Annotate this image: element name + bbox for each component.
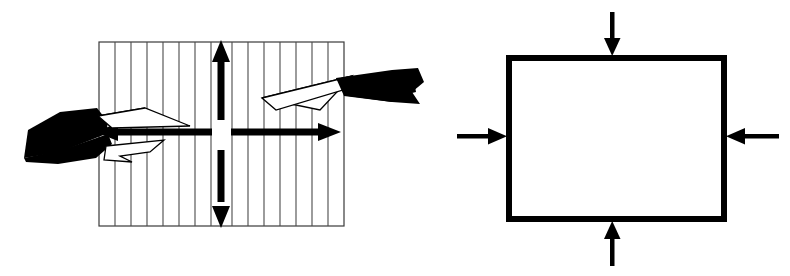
- vertical-arrow-shaft-lower: [218, 150, 225, 202]
- figure-root: [0, 0, 790, 276]
- bottom-arrow-head: [604, 221, 621, 239]
- right-compression-arrow: [726, 128, 779, 145]
- horizontal-arrow-shaft-right: [231, 129, 330, 136]
- right-arrow-shaft: [745, 134, 779, 139]
- square-outline: [509, 58, 724, 219]
- left-arrow-head: [488, 128, 507, 145]
- top-arrow-head: [604, 38, 621, 56]
- top-compression-arrow: [604, 12, 621, 56]
- left-compression-arrow: [457, 128, 507, 145]
- bottom-arrow-shaft: [610, 235, 615, 266]
- tension-specimen-panel: [24, 40, 424, 228]
- left-arrow-shaft: [457, 134, 490, 139]
- bottom-compression-arrow: [604, 221, 621, 266]
- horizontal-arrow-shaft-left: [114, 129, 212, 136]
- stress-diagram-svg: [0, 0, 790, 276]
- vertical-arrow-shaft-upper: [218, 58, 225, 120]
- compression-element-panel: [457, 12, 779, 266]
- right-arrow-head: [726, 128, 745, 145]
